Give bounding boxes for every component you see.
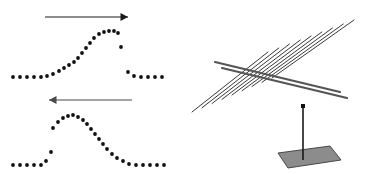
top-direction-arrow	[45, 13, 128, 21]
grating-wire	[272, 20, 354, 78]
pulse-dot	[119, 45, 123, 49]
polarizer-stand	[278, 104, 341, 168]
pulse-dot	[62, 66, 66, 70]
pulse-dot	[39, 163, 43, 167]
left-panel-dotted-pulses	[0, 0, 185, 174]
pulse-dot	[148, 163, 152, 167]
support-rod	[222, 68, 347, 98]
pulse-dot	[66, 114, 70, 118]
pulse-dot	[92, 36, 96, 40]
right-panel-polarizer	[185, 0, 370, 174]
grating-wire	[192, 52, 268, 112]
pulse-dot	[51, 72, 55, 76]
pulse-dot	[39, 75, 43, 79]
pulse-dot	[115, 156, 119, 160]
pulse-dot	[25, 75, 29, 79]
pulse-dot	[88, 41, 92, 45]
pulse-dot	[11, 75, 15, 79]
pulse-dot	[162, 163, 166, 167]
grating-wire	[222, 40, 300, 99]
pulse-dot	[56, 120, 60, 124]
pulse-dot	[89, 127, 93, 131]
pulse-dot	[51, 126, 55, 130]
pulse-dot	[116, 31, 120, 35]
grating-wires	[192, 20, 354, 112]
pulse-dot	[49, 150, 53, 154]
pulse-dot	[11, 163, 15, 167]
pulse-dot	[146, 75, 150, 79]
pulse-dot	[110, 152, 114, 156]
pulse-dot	[127, 162, 131, 166]
base-plate	[278, 146, 341, 168]
pulse-dot	[32, 163, 36, 167]
pulse-dot	[71, 113, 75, 117]
pulse-dot	[57, 69, 61, 73]
arrow-head	[121, 13, 129, 21]
pulse-dot	[25, 163, 29, 167]
top-pulse-dot-series	[11, 29, 164, 79]
pulse-dot	[32, 75, 36, 79]
pulse-dot	[67, 63, 71, 67]
pulse-dot	[112, 29, 116, 33]
figure-root	[0, 0, 370, 174]
pulse-dot	[45, 74, 49, 78]
arrow-head	[49, 96, 57, 104]
pulse-dot	[61, 116, 65, 120]
pulse-dot	[76, 115, 80, 119]
wire-grid-polarizer-svg	[185, 0, 370, 174]
pulse-dot	[102, 30, 106, 34]
pulse-dot	[139, 75, 143, 79]
pulse-dot	[121, 159, 125, 163]
pulse-dot	[134, 163, 138, 167]
pole-hub-joint	[301, 104, 305, 108]
pulse-dot	[80, 51, 84, 55]
pulse-dot	[18, 75, 22, 79]
bottom-direction-arrow	[49, 96, 132, 104]
pulse-dot	[155, 163, 159, 167]
grating-wire	[262, 24, 343, 82]
dotted-pulse-svg	[0, 0, 185, 174]
pulse-dot	[18, 163, 22, 167]
pulse-dot	[160, 75, 164, 79]
support-rod	[215, 62, 340, 92]
pulse-dot	[107, 29, 111, 33]
pulse-dot	[141, 163, 145, 167]
bottom-pulse-dot-series	[11, 113, 166, 167]
pulse-dot	[81, 118, 85, 122]
pulse-dot	[93, 132, 97, 136]
pulse-dot	[97, 32, 101, 36]
pulse-dot	[97, 137, 101, 141]
pulse-dot	[44, 159, 48, 163]
pulse-dot	[85, 122, 89, 126]
pulse-dot	[153, 75, 157, 79]
pulse-dot	[101, 142, 105, 146]
pulse-dot	[84, 46, 88, 50]
pulse-dot	[105, 147, 109, 151]
pulse-dot	[126, 70, 130, 74]
pulse-dot	[72, 60, 76, 64]
pulse-dot	[132, 74, 136, 78]
pulse-dot	[76, 56, 80, 60]
